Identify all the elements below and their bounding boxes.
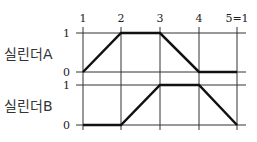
- series-label: 실린더B: [4, 98, 53, 114]
- step-label: 2: [118, 12, 125, 25]
- y-tick-label: 1: [63, 27, 70, 40]
- y-tick-label: 0: [63, 66, 70, 79]
- step-label: 5=1: [225, 12, 248, 25]
- step-label: 3: [157, 12, 164, 25]
- y-tick-label: 0: [63, 119, 70, 132]
- displacement-step-diagram: 12345=110실린더A10실린더B: [0, 0, 257, 142]
- y-tick-label: 1: [63, 79, 70, 92]
- step-label: 1: [80, 12, 87, 25]
- step-label: 4: [196, 12, 203, 25]
- series-label: 실린더A: [4, 46, 53, 62]
